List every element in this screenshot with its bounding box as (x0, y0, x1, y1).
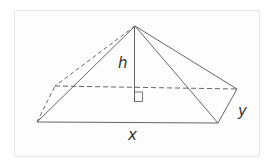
base-edge-front (37, 122, 218, 123)
lateral-edge-front-left (37, 26, 135, 122)
width-label: y (238, 104, 247, 119)
base-edge-right (218, 89, 237, 123)
lateral-edge-front-right (135, 26, 218, 123)
height-label: h (118, 56, 128, 71)
hidden-edge-left-side (37, 86, 55, 122)
hidden-edge-back-left (55, 86, 237, 89)
length-label: x (128, 128, 137, 143)
right-angle-marker (135, 92, 143, 102)
lateral-edge-back-right (135, 26, 237, 89)
